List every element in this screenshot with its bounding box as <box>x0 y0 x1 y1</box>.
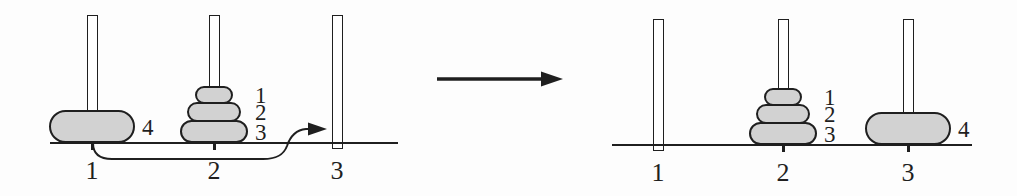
peg-base-tick <box>213 144 216 150</box>
disk <box>49 110 135 143</box>
peg-label: 1 <box>86 158 99 184</box>
disk-label: 4 <box>142 115 154 138</box>
peg-label: 3 <box>902 160 915 186</box>
peg-base-tick <box>91 144 94 150</box>
disk <box>180 120 248 143</box>
disk <box>187 102 241 122</box>
disk <box>865 112 951 145</box>
peg-base-tick <box>907 146 910 152</box>
arrows-overlay <box>0 0 1017 196</box>
disk-label: 1 <box>824 86 836 109</box>
disk <box>756 104 810 124</box>
transition-arrow-icon <box>437 72 563 87</box>
base-line <box>50 142 398 144</box>
disk-label: 1 <box>255 84 267 107</box>
disk-label: 4 <box>958 117 970 140</box>
peg-label: 2 <box>777 160 790 186</box>
peg-post <box>653 19 664 151</box>
peg-label: 1 <box>652 160 665 186</box>
hanoi-figure: 14232131232134 <box>0 0 1017 196</box>
base-line <box>612 144 972 146</box>
peg-base-tick <box>782 146 785 152</box>
peg-label: 2 <box>208 158 221 184</box>
disk <box>195 86 233 104</box>
peg-label: 3 <box>331 158 344 184</box>
disk <box>749 122 817 145</box>
peg-post <box>332 15 343 149</box>
disk <box>764 88 802 106</box>
